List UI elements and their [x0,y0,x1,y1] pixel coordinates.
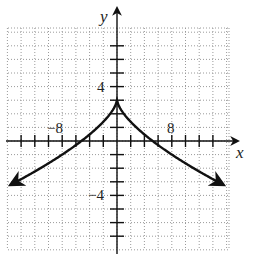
x-tick-label-8: 8 [167,120,175,136]
y-tick-label-4: 4 [97,79,105,95]
y-axis-label: y [98,7,108,26]
grid [7,28,229,250]
axes [6,8,238,254]
chart: y x −8 8 4 −4 [0,0,256,256]
x-tick-label-neg8: −8 [47,120,63,136]
y-tick-label-neg4: −4 [88,187,104,203]
x-axis-label: x [235,143,244,162]
